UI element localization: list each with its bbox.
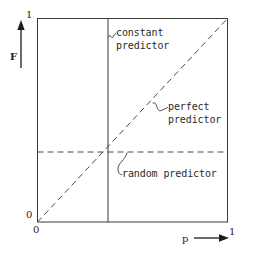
- right-arrow-icon: [219, 234, 229, 241]
- figure-container: constant predictor perfect predictor ran…: [0, 0, 256, 254]
- x-axis-tick-min: 0: [33, 224, 39, 235]
- x-axis-label: p: [182, 233, 188, 244]
- annotation-random-predictor: random predictor: [122, 168, 217, 181]
- perfect-predictor-leader: [153, 103, 168, 111]
- annotation-constant-predictor: constant predictor: [116, 27, 169, 52]
- x-axis-tick-max: 1: [229, 226, 235, 237]
- constant-predictor-leader: [109, 33, 117, 38]
- y-axis-tick-max: 1: [26, 9, 32, 20]
- up-arrow-icon: [17, 20, 24, 30]
- annotation-perfect-predictor: perfect predictor: [168, 101, 221, 126]
- y-axis-tick-min: 0: [26, 209, 32, 220]
- y-axis-label: F: [10, 51, 17, 62]
